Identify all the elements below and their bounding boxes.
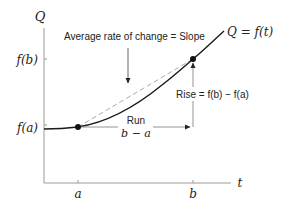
- slope-annotation: Average rate of change = Slope: [64, 31, 205, 42]
- x-axis-label: t: [238, 176, 243, 190]
- y-tick-label-fb: f(b): [16, 53, 39, 67]
- x-tick-label-a: a: [74, 187, 81, 201]
- run-label: Run: [127, 115, 145, 126]
- y-axis-label: Q: [35, 9, 46, 24]
- rate-of-change-diagram: Q t a b f(b) f(a) Q = f(t) Average rate …: [0, 0, 286, 210]
- point-b: [190, 56, 196, 62]
- rise-label: Rise = f(b) − f(a): [176, 89, 249, 100]
- rise-label-text: Rise = f(b) − f(a): [176, 89, 249, 100]
- run-value: b − a: [121, 127, 151, 140]
- curve-label: Q = f(t): [227, 25, 273, 39]
- x-tick-label-b: b: [189, 187, 197, 201]
- point-a: [75, 124, 81, 130]
- y-tick-label-fa: f(a): [16, 121, 38, 135]
